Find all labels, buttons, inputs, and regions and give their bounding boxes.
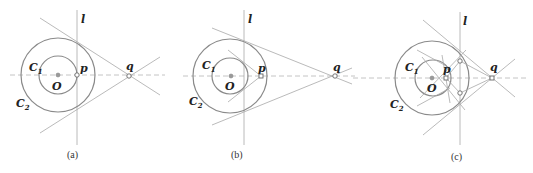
label-q: q xyxy=(490,61,498,74)
label-c1: C1 xyxy=(202,59,216,74)
label-l: l xyxy=(248,13,252,26)
tangent-point-upper xyxy=(458,59,462,63)
point-q-marker xyxy=(127,74,131,78)
panel-a: l C1 O p q C2 (a) xyxy=(10,10,165,161)
caption-b: (b) xyxy=(231,149,243,161)
label-o: O xyxy=(427,82,437,95)
label-l: l xyxy=(463,15,467,28)
center-o-marker xyxy=(56,73,60,77)
tangent-lower xyxy=(40,57,160,133)
upper-to-q xyxy=(460,61,492,78)
tangent-lower xyxy=(423,59,515,135)
tangent-upper xyxy=(423,20,515,97)
label-c2: C2 xyxy=(16,97,30,112)
label-c2: C2 xyxy=(189,95,203,110)
label-q: q xyxy=(333,61,341,74)
center-o-marker xyxy=(229,74,233,78)
point-q-marker xyxy=(490,76,494,80)
panel-b: l C1 O p q C2 (b) xyxy=(183,10,355,161)
label-c1: C1 xyxy=(405,61,419,76)
label-p: p xyxy=(443,63,451,76)
label-c1: C1 xyxy=(29,61,43,76)
label-o: O xyxy=(225,80,235,93)
panel-c: l C1 O p q C2 (c) xyxy=(353,12,528,163)
diagram-canvas: l C1 O p q C2 (a) l C1 O p q C2 (b) xyxy=(0,0,533,173)
point-p-marker xyxy=(444,76,448,80)
caption-a: (a) xyxy=(67,149,78,161)
caption-c: (c) xyxy=(451,151,462,163)
label-p: p xyxy=(80,62,88,75)
label-o: O xyxy=(52,80,62,93)
label-p: p xyxy=(258,62,266,75)
label-l: l xyxy=(81,13,85,26)
center-o-marker xyxy=(430,76,434,80)
point-p-marker xyxy=(75,73,79,77)
tangent-point-lower xyxy=(458,91,462,95)
label-q: q xyxy=(126,60,134,73)
point-q-marker xyxy=(333,74,337,78)
p-tangent-upper xyxy=(228,50,261,76)
